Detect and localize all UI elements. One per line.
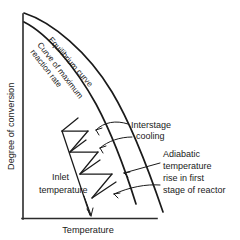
inlet-temperature-annotation: Inlet temperature xyxy=(39,172,93,216)
diagram-canvas: Degree of conversion Temperature Equilib… xyxy=(0,0,240,240)
adiabatic-leader-2-arrowhead xyxy=(114,193,120,198)
interstage-cooling-label-line2: cooling xyxy=(136,131,165,141)
y-axis-label: Degree of conversion xyxy=(6,83,16,170)
x-axis-label: Temperature xyxy=(62,225,114,235)
inlet-temperature-label-line1: Inlet xyxy=(52,172,70,182)
adiabatic-label-line4: stage of reactor xyxy=(163,185,226,195)
conversion-temperature-diagram: Degree of conversion Temperature Equilib… xyxy=(0,0,240,240)
adiabatic-label-line1: Adiabatic xyxy=(163,149,201,159)
adiabatic-staircase-path xyxy=(62,118,116,215)
adiabatic-rise-annotation: Adiabatic temperature rise in first stag… xyxy=(114,149,226,198)
inlet-temperature-leader xyxy=(84,196,91,215)
interstage-cooling-label-line1: Interstage xyxy=(131,120,171,130)
step-return-1 xyxy=(62,118,78,131)
adiabatic-label-line2: temperature xyxy=(163,161,212,171)
inlet-temperature-label-line2: temperature xyxy=(39,185,88,195)
adiabatic-label-line3: rise in first xyxy=(163,173,205,183)
adiabatic-leader-1 xyxy=(124,163,160,173)
adiabatic-rise-segment-2 xyxy=(70,131,88,152)
